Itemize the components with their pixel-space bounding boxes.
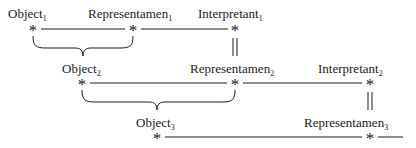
brace-object-2 <box>33 36 133 56</box>
label-representamen-3: Representamen3 <box>304 115 388 132</box>
node-object-3: * <box>153 129 162 148</box>
brace-object-3 <box>82 90 235 110</box>
label-object-1: Object1 <box>8 6 47 23</box>
diagram-canvas: Object1 Representamen1 Interpretant1 * *… <box>0 0 416 148</box>
node-representamen-3: * <box>366 129 375 148</box>
node-interpretant-2: * <box>366 75 375 94</box>
semiosis-diagram: Object1 Representamen1 Interpretant1 * *… <box>0 0 416 148</box>
node-interpretant-1: * <box>231 21 240 40</box>
